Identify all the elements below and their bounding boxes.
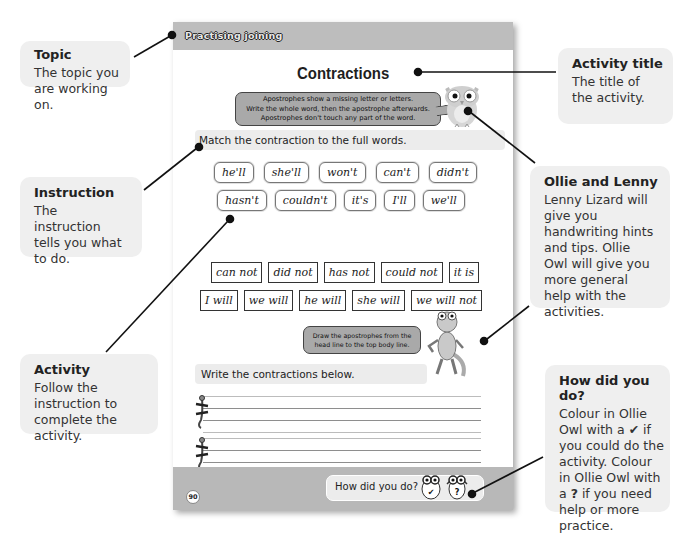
callout-body: The topic you are working on. <box>34 65 120 113</box>
contraction-chip[interactable]: didn't <box>429 162 477 183</box>
callout-activity-title: Activity title The title of the activity… <box>558 48 673 124</box>
callout-title: How did you do? <box>559 373 660 403</box>
owl-hint-bubble: Apostrophes show a missing letter or let… <box>235 92 441 126</box>
contraction-chip[interactable]: we'll <box>423 190 465 211</box>
lenny-hint-bubble: Draw the apostrophes from the head line … <box>303 326 421 354</box>
owl-tick-icon[interactable]: ✔ <box>419 472 443 500</box>
full-word-box[interactable]: can not <box>211 262 262 283</box>
callout-how-did-you-do: How did you do? Colour in Ollie Owl with… <box>545 365 670 512</box>
how-did-you-do-label: How did you do? <box>335 481 418 492</box>
contraction-chip[interactable]: she'll <box>264 162 309 183</box>
callout-title: Instruction <box>34 185 132 200</box>
callout-title: Ollie and Lenny <box>544 174 660 189</box>
contraction-chip[interactable]: it's <box>344 190 377 211</box>
callout-body: Colour in Ollie Owl with a ✔ if you coul… <box>559 406 667 534</box>
contraction-chip[interactable]: hasn't <box>217 190 267 211</box>
svg-text:✔: ✔ <box>428 488 435 497</box>
lenny-lizard-icon <box>423 304 473 379</box>
activity-title: Contractions <box>297 64 389 84</box>
hint-line: Apostrophes don't touch any part of the … <box>236 114 440 124</box>
full-word-box[interactable]: did not <box>268 262 317 283</box>
gecko-icon <box>193 394 211 430</box>
contractions-row-1: he'll she'll won't can't didn't <box>214 162 477 183</box>
instruction-bar: Match the contraction to the full words. <box>195 130 505 150</box>
callout-instruction: Instruction The instruction tells you wh… <box>20 177 142 257</box>
hint-line: head line to the top body line. <box>304 340 420 349</box>
callout-title: Activity title <box>572 56 663 71</box>
how-did-you-do-panel: How did you do? ✔ ? <box>326 475 484 501</box>
owl-question-icon[interactable]: ? <box>445 472 469 500</box>
contraction-chip[interactable]: I'll <box>384 190 414 211</box>
callout-body: Follow the instruction to complete the a… <box>34 380 154 444</box>
question-icon: ? <box>571 486 578 501</box>
contraction-chip[interactable]: couldn't <box>275 190 336 211</box>
full-word-box[interactable]: could not <box>381 262 443 283</box>
contraction-chip[interactable]: he'll <box>214 162 254 183</box>
callout-body: Lenny Lizard will give you handwriting h… <box>544 192 656 320</box>
full-word-box[interactable]: he will <box>299 290 346 311</box>
write-instruction-bar: Write the contractions below. <box>195 364 427 384</box>
writing-lines-1[interactable] <box>203 396 481 444</box>
page-number: 90 <box>186 490 200 504</box>
tick-icon: ✔ <box>629 422 639 437</box>
callout-activity: Activity Follow the instruction to compl… <box>20 354 158 434</box>
callout-topic: Topic The topic you are working on. <box>20 41 130 87</box>
cropped-top-text <box>0 0 690 6</box>
hint-line: Write the whole word, then the apostroph… <box>236 105 440 115</box>
callout-body: The instruction tells you what to do. <box>34 203 124 267</box>
ollie-owl-icon <box>441 80 483 130</box>
callout-body: The title of the activity. <box>572 74 652 106</box>
full-word-box[interactable]: she will <box>352 290 405 311</box>
callout-title: Topic <box>34 47 120 62</box>
hint-line: Apostrophes show a missing letter or let… <box>236 95 440 105</box>
topic-label: Practising joining <box>185 30 283 41</box>
page-footer: 90 How did you do? ✔ ? <box>173 467 513 510</box>
contractions-row-2: hasn't couldn't it's I'll we'll <box>217 190 465 211</box>
callout-ollie-lenny: Ollie and Lenny Lenny Lizard will give y… <box>530 166 670 308</box>
callout-title: Activity <box>34 362 148 377</box>
full-word-box[interactable]: we will <box>244 290 293 311</box>
page-header: Practising joining <box>173 22 513 50</box>
workbook-page: Practising joining Contractions Apostrop… <box>173 22 513 510</box>
full-words-row-1: can not did not has not could not it is <box>211 262 479 283</box>
contraction-chip[interactable]: can't <box>376 162 419 183</box>
contraction-chip[interactable]: won't <box>319 162 366 183</box>
full-word-box[interactable]: has not <box>324 262 375 283</box>
hint-line: Draw the apostrophes from the <box>304 331 420 340</box>
full-word-box[interactable]: it is <box>449 262 480 283</box>
svg-text:?: ? <box>455 488 460 497</box>
full-word-box[interactable]: I will <box>200 290 238 311</box>
